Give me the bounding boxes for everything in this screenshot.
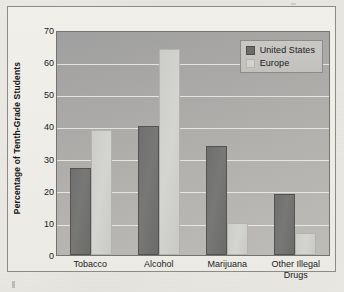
- bar-other-illegal-drugs-europe: [295, 233, 316, 256]
- y-tick-20: 20: [44, 187, 54, 197]
- y-axis-ticks: 70 60 50 40 30 20 10 0: [30, 31, 54, 256]
- y-tick-30: 30: [44, 155, 54, 165]
- bar-other-illegal-drugs-united-states: [274, 194, 295, 255]
- bar-alcohol-europe: [159, 49, 180, 255]
- legend-swatch-united-states: [246, 46, 255, 55]
- figure-frame: Percentage of Tenth-Grade Students 70 60…: [7, 6, 336, 272]
- bar-group-alcohol: [129, 32, 189, 255]
- scan-speck: [12, 281, 15, 288]
- y-tick-10: 10: [44, 219, 54, 229]
- x-tick-tobacco-line1: Tobacco: [60, 259, 120, 270]
- x-tick-other-illegal-drugs-line2: Drugs: [266, 270, 326, 281]
- x-axis-ticks: Tobacco Alcohol Marijuana Other Illegal …: [56, 259, 330, 281]
- legend-item-europe: Europe: [246, 58, 315, 68]
- legend: United States Europe: [240, 40, 323, 73]
- bar-tobacco-europe: [91, 130, 112, 255]
- legend-item-united-states: United States: [246, 45, 315, 55]
- x-tick-tobacco: Tobacco: [60, 259, 120, 281]
- bar-group-tobacco: [61, 32, 121, 255]
- page-background: Percentage of Tenth-Grade Students 70 60…: [0, 0, 344, 292]
- bar-alcohol-united-states: [138, 126, 159, 255]
- legend-swatch-europe: [246, 59, 255, 68]
- x-tick-marijuana-line1: Marijuana: [197, 259, 257, 270]
- bar-tobacco-united-states: [70, 168, 91, 255]
- y-axis-title: Percentage of Tenth-Grade Students: [10, 25, 24, 250]
- y-tick-0: 0: [49, 251, 54, 261]
- x-tick-alcohol-line1: Alcohol: [129, 259, 189, 270]
- x-tick-alcohol: Alcohol: [129, 259, 189, 281]
- y-tick-40: 40: [44, 122, 54, 132]
- y-tick-50: 50: [44, 90, 54, 100]
- y-axis-title-text: Percentage of Tenth-Grade Students: [12, 61, 22, 213]
- x-tick-other-illegal-drugs-line1: Other Illegal: [266, 259, 326, 270]
- bar-marijuana-united-states: [206, 146, 227, 255]
- x-tick-other-illegal-drugs: Other Illegal Drugs: [266, 259, 326, 281]
- x-tick-marijuana: Marijuana: [197, 259, 257, 281]
- legend-label-united-states: United States: [260, 45, 315, 55]
- legend-label-europe: Europe: [260, 58, 290, 68]
- y-tick-70: 70: [44, 26, 54, 36]
- bar-marijuana-europe: [227, 223, 248, 255]
- y-tick-60: 60: [44, 58, 54, 68]
- plot-area: United States Europe: [56, 31, 330, 256]
- scan-speck: [291, 3, 296, 5]
